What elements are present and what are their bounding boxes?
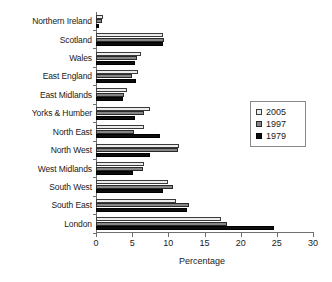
x-axis-tick-label: 20 [236, 239, 246, 248]
x-axis-tick [313, 233, 314, 237]
legend-item-1997: 1997 [256, 118, 301, 130]
bar-1979 [96, 189, 163, 193]
legend-label-1997: 1997 [266, 120, 286, 129]
legend-swatch-1979 [256, 133, 262, 139]
bar-1997 [96, 203, 189, 207]
category-row: Wales [96, 49, 313, 67]
x-axis-tick-label: 15 [199, 239, 209, 248]
legend-swatch-1997 [256, 121, 262, 127]
x-axis-tick-label: 30 [308, 239, 318, 248]
bar-1997 [96, 185, 173, 189]
bar-1997 [96, 93, 124, 97]
bar-1997 [96, 167, 143, 171]
bar-1997 [96, 19, 102, 23]
category-label: Northern Ireland [32, 17, 92, 26]
bar-1997 [96, 222, 227, 226]
category-label: North East [53, 127, 92, 136]
x-axis-tick [205, 233, 206, 237]
category-row: South East [96, 196, 313, 214]
legend-item-1979: 1979 [256, 130, 301, 142]
category-label: South East [51, 201, 92, 210]
bar-2005 [96, 162, 144, 166]
chart-legend: 2005 1997 1979 [250, 101, 306, 147]
x-axis-tick-label: 10 [163, 239, 173, 248]
bar-1979 [96, 79, 136, 83]
category-row: London [96, 215, 313, 233]
category-label: North West [51, 146, 92, 155]
legend-label-1979: 1979 [266, 132, 286, 141]
x-axis-title-text: Percentage [179, 256, 225, 266]
bar-1979 [96, 134, 160, 138]
bar-2005 [96, 15, 103, 19]
x-axis-tick-label: 5 [130, 239, 135, 248]
bar-2005 [96, 217, 221, 221]
category-label: Scotland [60, 35, 92, 44]
bar-1979 [96, 208, 187, 212]
bar-2005 [96, 144, 179, 148]
x-axis-tick-label: 0 [93, 239, 98, 248]
bar-1997 [96, 148, 178, 152]
category-label: London [64, 220, 92, 229]
bar-1979 [96, 42, 163, 46]
bar-1997 [96, 56, 137, 60]
category-row: Northern Ireland [96, 12, 313, 30]
bar-1979 [96, 153, 150, 157]
bar-2005 [96, 70, 138, 74]
category-label: East England [43, 72, 92, 81]
bar-1997 [96, 111, 144, 115]
bar-2005 [96, 199, 176, 203]
bar-1997 [96, 38, 164, 42]
bar-1979 [96, 97, 123, 101]
bar-1979 [96, 116, 135, 120]
bar-chart: Northern IrelandScotlandWalesEast Englan… [0, 0, 332, 282]
category-label: West Midlands [38, 164, 92, 173]
bar-2005 [96, 125, 144, 129]
category-row: East England [96, 67, 313, 85]
x-axis-tick [96, 233, 97, 237]
bar-2005 [96, 180, 168, 184]
x-axis-tick [132, 233, 133, 237]
bar-1997 [96, 74, 132, 78]
bar-2005 [96, 107, 150, 111]
bar-1979 [96, 61, 135, 65]
category-row: Scotland [96, 30, 313, 48]
category-label: Wales [69, 54, 92, 63]
category-row: South West [96, 178, 313, 196]
legend-item-2005: 2005 [256, 106, 301, 118]
bar-1979 [96, 171, 133, 175]
x-axis-title: Percentage [0, 256, 332, 266]
bar-1997 [96, 130, 134, 134]
legend-swatch-2005 [256, 109, 262, 115]
bar-1979 [96, 24, 99, 28]
bar-2005 [96, 88, 127, 92]
x-axis-tick [277, 233, 278, 237]
category-label: South West [49, 183, 92, 192]
bar-2005 [96, 52, 141, 56]
legend-label-2005: 2005 [266, 108, 286, 117]
x-axis-tick [168, 233, 169, 237]
x-axis-tick [241, 233, 242, 237]
bar-2005 [96, 33, 163, 37]
bar-1979 [96, 226, 274, 230]
category-label: Yorks & Humber [32, 109, 92, 118]
category-row: West Midlands [96, 159, 313, 177]
x-axis-tick-label: 25 [272, 239, 282, 248]
category-label: East Midlands [40, 91, 92, 100]
